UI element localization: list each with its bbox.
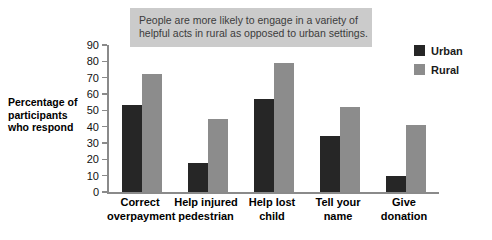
x-axis-label-2-line-2: pedestrian [173, 210, 239, 224]
bar-rural-4 [340, 107, 360, 192]
x-axis-label-3-line-2: child [239, 210, 305, 224]
plot-area: 0102030405060708090 [107, 45, 437, 192]
callout-annotation: People are more likely to engage in a va… [130, 8, 372, 47]
y-tick-20 [102, 159, 107, 161]
y-tick-label-10: 10 [87, 170, 99, 182]
y-tick-label-80: 80 [87, 55, 99, 67]
y-tick-10 [102, 175, 107, 177]
y-axis-title-line-2: participants [8, 109, 94, 122]
y-tick-60 [102, 93, 107, 95]
y-tick-label-90: 90 [87, 39, 99, 51]
y-tick-40 [102, 126, 107, 128]
y-tick-0 [102, 191, 107, 193]
y-tick-label-40: 40 [87, 121, 99, 133]
x-axis-label-3-line-1: Help lost [239, 196, 305, 210]
callout-line-1: People are more likely to engage in a va… [139, 14, 363, 27]
bar-urban-3 [254, 99, 274, 192]
x-axis-label-4-line-2: name [305, 210, 371, 224]
x-axis-label-5: Givedonation [371, 196, 437, 223]
x-axis-label-1-line-2: overpayment [107, 210, 173, 224]
x-axis-label-5-line-1: Give [371, 196, 437, 210]
bar-group [307, 45, 373, 192]
bar-rural-5 [406, 125, 426, 192]
bar-rural-3 [274, 63, 294, 192]
y-tick-label-30: 30 [87, 137, 99, 149]
x-axis-label-3: Help lostchild [239, 196, 305, 223]
callout-line-2: helpful acts in rural as opposed to urba… [139, 27, 363, 40]
y-tick-80 [102, 61, 107, 63]
bar-rural-2 [208, 119, 228, 193]
y-tick-label-50: 50 [87, 104, 99, 116]
y-tick-50 [102, 110, 107, 112]
x-axis-label-4: Tell yourname [305, 196, 371, 223]
x-axis-label-4-line-1: Tell your [305, 196, 371, 210]
x-axis-labels: CorrectoverpaymentHelp injuredpedestrian… [107, 196, 439, 236]
y-tick-label-70: 70 [87, 72, 99, 84]
y-tick-90 [102, 44, 107, 46]
y-axis-title-line-3: who respond [8, 121, 94, 134]
y-axis-title-line-1: Percentage of [8, 96, 94, 109]
bar-urban-1 [122, 105, 142, 192]
y-tick-30 [102, 142, 107, 144]
x-axis-label-1: Correctoverpayment [107, 196, 173, 223]
y-tick-label-0: 0 [93, 186, 99, 198]
bar-rural-1 [142, 74, 162, 192]
y-tick-label-20: 20 [87, 153, 99, 165]
bar-group [109, 45, 175, 192]
y-tick-label-60: 60 [87, 88, 99, 100]
bar-group [373, 45, 439, 192]
y-tick-70 [102, 77, 107, 79]
bar-urban-5 [386, 176, 406, 192]
bar-urban-4 [320, 136, 340, 192]
bar-urban-2 [188, 163, 208, 192]
bar-group [175, 45, 241, 192]
x-axis-label-2: Help injuredpedestrian [173, 196, 239, 223]
x-axis-line [107, 192, 439, 194]
x-axis-label-1-line-1: Correct [107, 196, 173, 210]
bar-chart-figure: People are more likely to engage in a va… [0, 0, 492, 240]
bar-group [241, 45, 307, 192]
y-axis-title: Percentage of participants who respond [8, 96, 94, 134]
x-axis-label-2-line-1: Help injured [173, 196, 239, 210]
x-axis-label-5-line-2: donation [371, 210, 437, 224]
bar-series-container [109, 45, 439, 192]
